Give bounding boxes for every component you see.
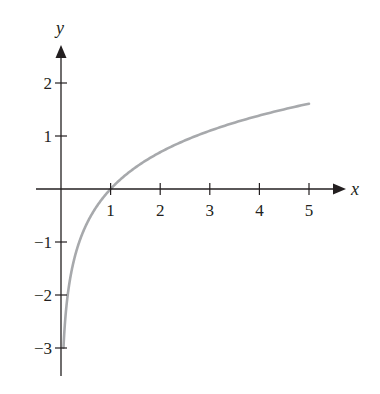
x-tick-label: 2 bbox=[156, 201, 165, 220]
x-tick-label: 1 bbox=[106, 201, 115, 220]
x-tick-label: 5 bbox=[305, 201, 314, 220]
tick-labels: 12345−3−2−112 bbox=[34, 74, 313, 358]
axes bbox=[36, 45, 346, 376]
ticks bbox=[55, 83, 309, 348]
x-tick-label: 4 bbox=[255, 201, 264, 220]
ln-curve bbox=[63, 104, 309, 348]
y-axis-label: y bbox=[54, 18, 64, 38]
y-tick-label: 1 bbox=[44, 127, 53, 146]
chart: 12345−3−2−112 x y bbox=[0, 0, 380, 394]
x-tick-label: 3 bbox=[206, 201, 215, 220]
y-tick-label: 2 bbox=[44, 74, 53, 93]
x-axis-label: x bbox=[350, 179, 359, 199]
y-axis-arrow-icon bbox=[56, 45, 67, 58]
y-tick-label: −2 bbox=[34, 286, 52, 305]
y-tick-label: −3 bbox=[34, 339, 52, 358]
curve-layer bbox=[63, 104, 309, 348]
x-axis-arrow-icon bbox=[333, 184, 346, 195]
y-tick-label: −1 bbox=[34, 233, 52, 252]
